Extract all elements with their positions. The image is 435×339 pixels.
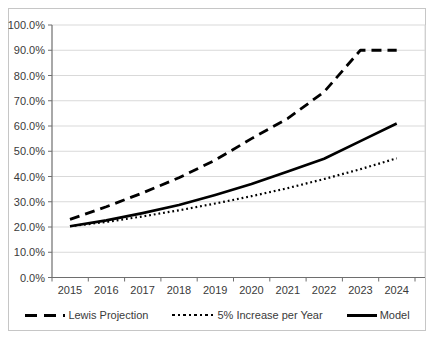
- svg-text:2020: 2020: [239, 284, 263, 296]
- svg-text:2022: 2022: [312, 284, 336, 296]
- legend-label-5pct-increase: 5% Increase per Year: [217, 310, 322, 321]
- line-chart-plot-area: 0.0%10.0%20.0%30.0%40.0%50.0%60.0%70.0%8…: [0, 0, 435, 339]
- solid-line-sample-icon: [347, 314, 377, 317]
- svg-text:80.0%: 80.0%: [14, 70, 45, 82]
- svg-text:2019: 2019: [203, 284, 227, 296]
- legend-label-lewis-projection: Lewis Projection: [68, 310, 148, 321]
- svg-text:40.0%: 40.0%: [14, 171, 45, 183]
- chart-legend: Lewis Projection 5% Increase per Year Mo…: [0, 306, 435, 324]
- legend-item-model: Model: [347, 310, 410, 321]
- svg-text:10.0%: 10.0%: [14, 246, 45, 258]
- series-line-dotted: [70, 158, 397, 226]
- legend-item-lewis-projection: Lewis Projection: [25, 310, 148, 321]
- svg-text:2023: 2023: [348, 284, 372, 296]
- svg-text:50.0%: 50.0%: [14, 145, 45, 157]
- dashed-line-sample-icon: [25, 314, 65, 317]
- svg-text:20.0%: 20.0%: [14, 221, 45, 233]
- legend-item-5pct-increase: 5% Increase per Year: [172, 310, 322, 321]
- svg-text:2021: 2021: [276, 284, 300, 296]
- svg-text:2017: 2017: [130, 284, 154, 296]
- dotted-line-sample-icon: [172, 314, 214, 317]
- svg-text:2024: 2024: [384, 284, 408, 296]
- svg-text:30.0%: 30.0%: [14, 196, 45, 208]
- svg-text:60.0%: 60.0%: [14, 120, 45, 132]
- svg-text:2015: 2015: [58, 284, 82, 296]
- svg-text:2018: 2018: [167, 284, 191, 296]
- svg-text:70.0%: 70.0%: [14, 95, 45, 107]
- series-line-solid: [70, 123, 397, 226]
- svg-text:100.0%: 100.0%: [8, 19, 46, 31]
- legend-label-model: Model: [380, 310, 410, 321]
- svg-text:0.0%: 0.0%: [20, 272, 45, 284]
- svg-text:90.0%: 90.0%: [14, 44, 45, 56]
- svg-text:2016: 2016: [94, 284, 118, 296]
